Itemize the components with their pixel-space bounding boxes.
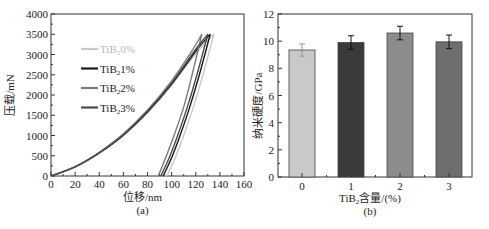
- y-tick-label: 2500: [26, 69, 49, 81]
- x-tick-label: 120: [188, 178, 205, 190]
- y-tick-label: 10: [263, 35, 275, 47]
- panel-label: (a): [136, 204, 149, 217]
- y-tick-label: 4000: [26, 8, 49, 20]
- y-tick-label: 1000: [26, 130, 49, 142]
- x-tick-label: 3: [446, 180, 452, 192]
- bar: [289, 44, 315, 177]
- x-axis-label: TiB2含量/(%): [339, 191, 401, 206]
- x-axis-label: 位移/nm: [123, 190, 163, 203]
- nanohardness-bar-chart: 0123024681012TiB2含量/(%)纳米硬度/GPa(b): [251, 8, 472, 218]
- y-tick-label: 3500: [26, 28, 49, 40]
- x-tick-label: 2: [397, 180, 403, 192]
- x-tick-label: 40: [94, 178, 106, 190]
- legend: TiB20%TiB21%TiB22%TiB23%: [81, 43, 135, 116]
- x-tick-label: 0: [48, 178, 54, 190]
- plot-frame: [51, 14, 244, 176]
- legend-entry: TiB21%: [100, 63, 135, 77]
- legend-entry: TiB23%: [100, 102, 135, 116]
- y-tick-label: 12: [263, 8, 274, 20]
- y-tick-label: 0: [43, 170, 49, 182]
- figure: 0204060801001201401600500100015002000250…: [0, 0, 489, 229]
- y-tick-label: 1500: [26, 109, 49, 121]
- y-tick-label: 2000: [26, 89, 49, 101]
- y-tick-label: 6: [269, 90, 275, 102]
- panel-label: (b): [364, 205, 377, 218]
- legend-entry: TiB20%: [100, 43, 135, 57]
- bar: [338, 36, 364, 177]
- x-tick-label: 140: [212, 178, 229, 190]
- y-tick-label: 3000: [26, 49, 49, 61]
- y-tick-label: 0: [269, 171, 275, 183]
- x-tick-label: 80: [142, 178, 154, 190]
- y-axis-label: 压载/mN: [4, 74, 16, 116]
- load-displacement-chart: 0204060801001201401600500100015002000250…: [4, 8, 253, 217]
- x-tick-label: 100: [163, 178, 180, 190]
- x-tick-label: 0: [299, 180, 305, 192]
- y-tick-label: 8: [269, 62, 275, 74]
- legend-entry: TiB22%: [100, 82, 135, 96]
- y-tick-label: 2: [269, 144, 275, 156]
- x-tick-label: 20: [70, 178, 82, 190]
- x-tick-label: 60: [118, 178, 130, 190]
- bar: [387, 26, 413, 177]
- y-tick-label: 500: [32, 150, 49, 162]
- y-axis-label: 纳米硬度/GPa: [251, 72, 264, 138]
- y-tick-label: 4: [269, 117, 275, 129]
- x-tick-label: 160: [236, 178, 253, 190]
- x-tick-label: 1: [348, 180, 354, 192]
- bar: [436, 35, 462, 177]
